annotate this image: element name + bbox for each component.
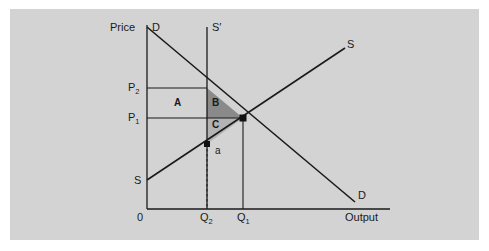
point-a-marker — [204, 141, 210, 147]
equilibrium-point-marker — [240, 115, 247, 122]
point-a-label: a — [215, 146, 221, 156]
price-tick-p1-subscript: 1 — [135, 117, 139, 126]
price-tick-p1: P1 — [128, 112, 140, 123]
demand-curve-label-top: D — [152, 22, 160, 33]
supply-curve — [147, 48, 345, 180]
demand-curve-label-bottom: D — [358, 190, 366, 201]
region-a-label: A — [174, 98, 181, 108]
y-axis-label: Price — [110, 22, 135, 33]
supply-curve-label-left: S — [134, 175, 141, 186]
region-b-label: B — [212, 98, 219, 108]
quantity-tick-q1: Q1 — [237, 212, 250, 223]
quantity-tick-q1-subscript: 1 — [246, 217, 250, 226]
demand-curve — [147, 27, 355, 202]
price-tick-p2-subscript: 2 — [135, 87, 139, 96]
price-tick-p2: P2 — [128, 82, 140, 93]
figure-root: Price Output 0 D D S S S′ P2 P1 Q2 Q1 A … — [0, 0, 489, 251]
region-c-label: C — [212, 120, 219, 130]
supply-curve-label-right: S — [347, 39, 354, 50]
quantity-tick-q2-subscript: 2 — [209, 217, 213, 226]
x-axis-label: Output — [345, 212, 378, 223]
quantity-tick-q2: Q2 — [200, 212, 213, 223]
origin-label: 0 — [137, 212, 143, 223]
supply-restricted-curve-label: S′ — [212, 22, 221, 33]
